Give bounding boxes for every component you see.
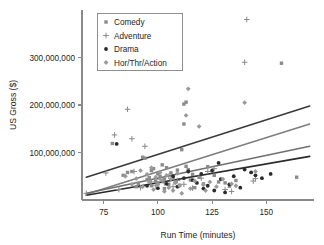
- data-point-drama: [206, 184, 210, 188]
- data-point-drama: [210, 169, 214, 173]
- data-point-comedy: [280, 62, 283, 65]
- x-tick-label: 100: [151, 208, 165, 217]
- data-point-hor-thr-action: [234, 183, 239, 188]
- x-axis-title: Run Time (minutes): [161, 230, 236, 240]
- x-tick-label: 125: [205, 208, 219, 217]
- data-point-hor-thr-action: [184, 113, 189, 118]
- data-point-adventure: [142, 144, 148, 150]
- data-point-adventure: [112, 132, 118, 138]
- data-point-comedy: [126, 171, 129, 174]
- data-point-adventure: [181, 182, 187, 188]
- data-point-drama: [269, 172, 273, 176]
- x-tick-label: 150: [259, 208, 273, 217]
- data-point-drama: [217, 161, 221, 165]
- data-point-hor-thr-action: [179, 191, 184, 196]
- y-tick-label: 300,000,000: [29, 54, 75, 63]
- data-point-hor-thr-action: [214, 184, 219, 189]
- plot-canvas: 100,000,000200,000,000300,000,0007510012…: [0, 0, 324, 245]
- data-point-adventure: [125, 106, 131, 112]
- data-point-adventure: [229, 189, 235, 195]
- data-point-comedy: [137, 182, 140, 185]
- data-point-drama: [260, 176, 264, 180]
- data-point-comedy: [165, 166, 168, 169]
- scatter-chart: 100,000,000200,000,000300,000,0007510012…: [0, 0, 324, 245]
- fit-line-Adventure-fit: [86, 106, 309, 177]
- data-point-comedy: [111, 142, 114, 145]
- fit-line-HorThrAction-fit: [86, 146, 309, 193]
- data-point-comedy: [143, 157, 146, 160]
- data-point-hor-thr-action: [134, 176, 139, 181]
- data-point-comedy: [161, 163, 164, 166]
- data-point-drama: [254, 173, 258, 177]
- data-point-drama: [199, 172, 203, 176]
- data-point-hor-thr-action: [253, 169, 258, 174]
- data-point-comedy: [169, 171, 172, 174]
- legend-label-comedy: Comedy: [114, 18, 145, 27]
- data-point-comedy: [295, 176, 298, 179]
- y-tick-label: 100,000,000: [29, 149, 75, 158]
- data-point-drama: [115, 142, 119, 146]
- data-point-comedy: [135, 185, 138, 188]
- data-point-hor-thr-action: [208, 180, 213, 185]
- data-point-comedy: [182, 122, 185, 125]
- legend-label-hor-thr-action: Hor/Thr/Action: [114, 59, 167, 68]
- data-point-drama: [223, 191, 227, 195]
- data-point-drama: [238, 186, 242, 190]
- data-point-drama: [165, 182, 169, 186]
- data-point-adventure: [129, 136, 135, 142]
- data-point-drama: [145, 184, 149, 188]
- data-point-comedy: [213, 174, 216, 177]
- legend-marker-comedy: [104, 20, 107, 23]
- data-point-drama: [212, 189, 216, 193]
- data-point-drama: [249, 171, 253, 175]
- data-point-comedy: [217, 180, 220, 183]
- data-point-drama: [182, 176, 186, 180]
- data-point-hor-thr-action: [186, 86, 191, 91]
- data-point-comedy: [206, 165, 209, 168]
- legend-marker-drama: [104, 47, 108, 51]
- data-point-comedy: [180, 148, 183, 151]
- x-tick-label: 75: [99, 208, 109, 217]
- data-point-drama: [243, 168, 247, 172]
- data-point-hor-thr-action: [242, 100, 247, 105]
- data-point-comedy: [148, 176, 151, 179]
- data-point-hor-thr-action: [138, 168, 143, 173]
- data-point-comedy: [184, 100, 187, 103]
- y-tick-label: 200,000,000: [29, 101, 75, 110]
- data-point-drama: [186, 170, 190, 174]
- data-point-adventure: [244, 17, 250, 23]
- data-point-hor-thr-action: [171, 188, 176, 193]
- data-point-comedy: [234, 179, 237, 182]
- data-point-hor-thr-action: [197, 124, 202, 129]
- data-point-comedy: [223, 181, 226, 184]
- data-point-adventure: [242, 59, 248, 65]
- data-point-comedy: [191, 173, 194, 176]
- legend-label-drama: Drama: [114, 45, 139, 54]
- data-point-comedy: [184, 165, 187, 168]
- data-point-adventure: [131, 169, 137, 175]
- data-point-drama: [232, 174, 236, 178]
- legend-label-adventure: Adventure: [114, 32, 152, 41]
- y-axis-title: US Gross ($): [8, 80, 18, 130]
